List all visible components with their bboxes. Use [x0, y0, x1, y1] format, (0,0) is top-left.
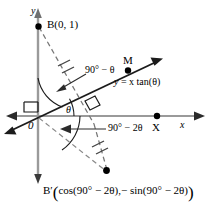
point-label-x: X	[152, 122, 160, 133]
tick-mark-upper-1	[58, 60, 70, 66]
diagram-canvas	[0, 0, 213, 207]
b-prime-coord-y: − sin(90° − 2θ)	[121, 184, 188, 196]
angle-arc-90-minus-theta	[38, 78, 63, 107]
angle-label-90-minus-2theta: 90° − 2θ	[108, 123, 142, 133]
point-dot-b	[35, 23, 41, 29]
right-angle-marker-origin	[24, 102, 38, 112]
leader-arrowhead-90-minus-2theta	[60, 125, 71, 134]
b-prime-coord-x: cos(90° − 2θ),	[58, 184, 121, 196]
slant-line-lower-arrowhead	[4, 126, 17, 134]
line-equation-label: y = x tan(θ)	[114, 77, 160, 87]
b-prime-name: B′	[43, 184, 53, 196]
x-axis-label: x	[180, 120, 184, 130]
point-label-m: M	[123, 55, 133, 66]
leader-line-90-minus-theta	[62, 74, 86, 88]
b-prime-close-paren: )	[188, 183, 194, 202]
leader-arrowhead-90-minus-theta	[56, 84, 67, 92]
point-dot-m	[125, 67, 131, 73]
tick-mark-upper-2	[62, 67, 74, 73]
point-dot-b-prime	[103, 167, 110, 174]
point-dot-x	[154, 113, 160, 119]
x-axis-left-arrowhead	[6, 112, 17, 121]
tick-mark-lower-1	[92, 141, 104, 147]
line-equation-rest: = x tan(θ)	[118, 76, 160, 87]
y-axis-label: y	[31, 6, 35, 16]
geometry-figure: y x 0 B(0, 1) M X y = x tan(θ) θ 90° − θ…	[0, 0, 213, 207]
origin-label: 0	[28, 120, 34, 131]
angle-label-theta: θ	[66, 105, 71, 115]
x-axis-right-arrowhead	[194, 112, 205, 121]
point-label-b: B(0, 1)	[47, 19, 78, 30]
angle-label-90-minus-theta: 90° − θ	[85, 65, 114, 75]
y-axis-down-arrowhead	[34, 174, 42, 184]
right-angle-marker-perpendicular	[85, 96, 100, 110]
point-label-b-prime: B′(cos(90° − 2θ),− sin(90° − 2θ))	[43, 184, 194, 201]
